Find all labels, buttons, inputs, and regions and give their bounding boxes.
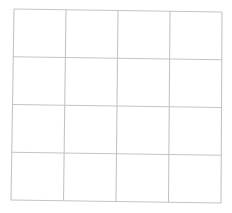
grid-diagram	[0, 0, 232, 213]
grid-cell	[117, 106, 170, 155]
grid-cell	[117, 58, 170, 107]
grid-cell	[169, 107, 222, 156]
grid-cell	[118, 11, 171, 60]
grid-cell	[64, 105, 117, 154]
grid-cell	[13, 57, 66, 106]
grid-cell	[116, 154, 169, 203]
grid-cell	[65, 10, 118, 59]
grid-cell	[169, 59, 222, 108]
grid-cell	[12, 105, 65, 154]
grid-cell	[64, 153, 117, 202]
grid-cell	[65, 58, 118, 107]
grid-cell	[11, 152, 64, 201]
grid-cell	[170, 11, 222, 60]
grid-cell	[13, 9, 66, 58]
grid-cell	[169, 155, 222, 204]
